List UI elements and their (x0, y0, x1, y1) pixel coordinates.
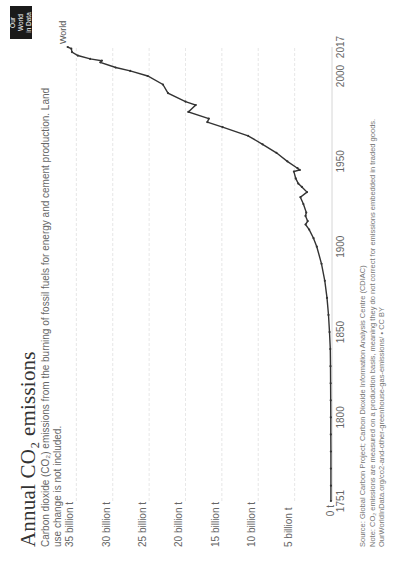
data-point (286, 160, 288, 162)
data-point (330, 500, 332, 502)
data-point (70, 48, 72, 50)
chart-footer: Source: Global Carbon Project; Carbon Di… (358, 7, 387, 547)
data-point (293, 170, 295, 172)
data-point (67, 46, 69, 48)
world-series-points (67, 46, 332, 502)
footer-url[interactable]: OurWorldInData.org/co2-and-other-greenho… (377, 7, 387, 547)
data-point (330, 399, 332, 401)
data-point (312, 237, 314, 239)
data-point (77, 54, 79, 56)
data-point (247, 135, 249, 137)
x-tick-label: 1850 (335, 320, 346, 343)
x-tick-label: 1900 (335, 235, 346, 258)
data-point (305, 211, 307, 213)
data-point (299, 169, 301, 171)
x-tick-label: 2017 (335, 35, 346, 58)
data-point (296, 167, 298, 169)
data-point (329, 365, 331, 367)
data-point (307, 220, 309, 222)
footer-note: Note: CO₂ emissions are measured on a pr… (368, 7, 378, 547)
data-point (115, 66, 117, 68)
data-point (184, 101, 186, 103)
data-point (330, 467, 332, 469)
data-point (99, 61, 101, 63)
data-point (304, 215, 306, 217)
y-tick-label: 10 billion t (246, 502, 257, 547)
data-point (306, 191, 308, 193)
data-point (129, 70, 131, 72)
data-point (302, 203, 304, 205)
y-tick-label: 35 billion t (64, 502, 75, 547)
data-point (221, 126, 223, 128)
data-point (330, 485, 332, 487)
data-point (297, 182, 299, 184)
data-point (206, 121, 208, 123)
data-point (316, 246, 318, 248)
y-tick-label: 25 billion t (137, 502, 148, 547)
y-tick-label: 20 billion t (173, 502, 184, 547)
data-point (329, 348, 331, 350)
world-series-line[interactable] (68, 47, 331, 501)
y-tick-label: 5 billion t (283, 507, 294, 547)
x-tick-label: 1800 (335, 406, 346, 429)
data-point (195, 104, 197, 106)
data-point (89, 58, 91, 60)
data-point (71, 51, 73, 53)
data-point (330, 433, 332, 435)
data-point (187, 111, 189, 113)
data-point (295, 177, 297, 179)
data-point (167, 92, 169, 94)
series-label-world[interactable]: World (58, 21, 68, 44)
data-point (308, 229, 310, 231)
data-point (262, 143, 264, 145)
data-point (208, 118, 210, 120)
gridlines (76, 47, 294, 501)
x-tick-label: 2000 (335, 64, 346, 87)
data-point (301, 186, 303, 188)
data-point (304, 223, 306, 225)
data-point (326, 297, 328, 299)
y-tick-label: 15 billion t (210, 502, 221, 547)
data-point (330, 450, 332, 452)
data-point (162, 83, 164, 85)
data-point (327, 314, 329, 316)
data-point (275, 152, 277, 154)
data-point (320, 263, 322, 265)
chart-frame: Annual CO₂ emissions Carbon dioxide (CO₂… (0, 0, 403, 587)
y-axis-ticks: 0 t5 billion t10 billion t15 billion t20… (64, 502, 336, 547)
line-chart: 0 t5 billion t10 billion t15 billion t20… (0, 0, 403, 587)
x-axis-ticks: 1751180018501900195020002017 (335, 35, 346, 512)
data-point (147, 75, 149, 77)
data-point (330, 416, 332, 418)
data-point (299, 196, 301, 198)
data-point (330, 382, 332, 384)
data-point (101, 60, 103, 62)
footer-source: Source: Global Carbon Project; Carbon Di… (358, 7, 368, 547)
data-point (328, 331, 330, 333)
y-tick-label: 30 billion t (101, 502, 112, 547)
data-point (324, 280, 326, 282)
x-tick-label: 1751 (335, 489, 346, 512)
x-tick-label: 1950 (335, 150, 346, 173)
